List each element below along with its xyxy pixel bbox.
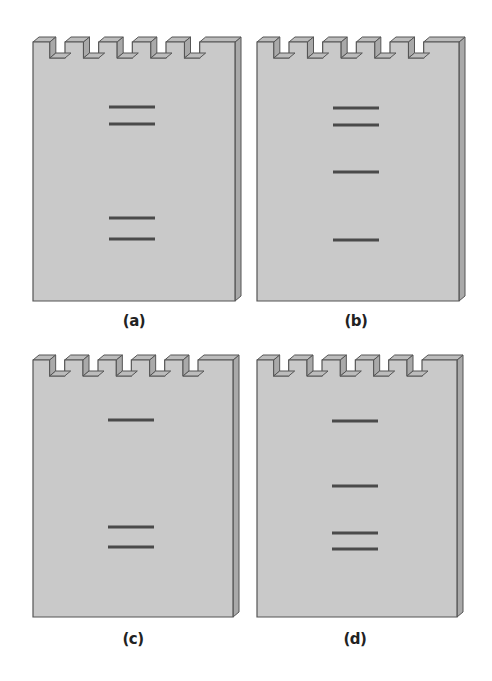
well-tooth-top [422,355,463,360]
dna-band [332,485,378,488]
panel-label-d: (d) [325,630,385,648]
dna-band [109,106,155,109]
dna-band [109,123,155,126]
gel-panel-b [255,34,467,303]
dna-band [109,238,155,241]
dna-band [333,124,379,127]
gel-panel-a [31,34,243,303]
panel-label-a: (a) [104,312,164,330]
dna-band [333,107,379,110]
gel-front-face [33,360,233,617]
dna-band [108,546,154,549]
well-tooth-top [198,355,239,360]
gel-side-face [233,355,239,617]
gel-front-face [257,360,457,617]
dna-band [109,217,155,220]
gel-side-face [459,37,465,301]
gel-panel-c [31,352,241,619]
well-tooth-top [424,37,465,42]
gel-panel-d [255,352,465,619]
well-tooth-top [200,37,241,42]
panel-label-c: (c) [103,630,163,648]
dna-band [333,239,379,242]
gel-front-face [33,42,235,301]
panel-label-b: (b) [326,312,386,330]
gel-side-face [457,355,463,617]
dna-band [108,526,154,529]
dna-band [333,171,379,174]
dna-band [332,548,378,551]
dna-band [332,420,378,423]
gel-side-face [235,37,241,301]
dna-band [332,532,378,535]
dna-band [108,419,154,422]
